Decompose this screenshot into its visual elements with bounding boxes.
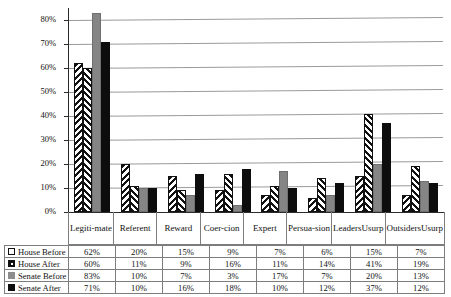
table-cell: 13% [398,270,445,281]
table-cell: 15% [351,246,398,257]
table-cell: 16% [210,258,257,269]
bar [308,198,317,212]
table-cell: 7% [257,246,304,257]
bar [215,190,224,212]
category-label-strip: Legiti-mateReferentRewardCoer-cionExpert… [68,212,445,245]
table-row: Senate Before83%10%7%3%17%7%20%13% [5,270,445,282]
table-cells: 60%11%9%16%11%14%41%19% [69,258,445,269]
category-label: Legiti-mate [68,212,113,245]
bar [382,123,391,212]
category-label-line: Leaders [333,223,361,234]
y-axis-tick-label: 10% [40,183,56,192]
table-cell: 37% [351,282,398,293]
bar-group [69,8,116,212]
table-cell: 7% [304,270,351,281]
legend-item-label: Senate Before [18,271,66,281]
bar [364,114,373,212]
bar [74,63,83,212]
table-cell: 9% [210,246,257,257]
table-cell: 11% [116,258,163,269]
category-label-line: Expert [253,223,277,234]
gray-square-icon [8,272,15,279]
bar-group [303,8,350,212]
table-row: House After60%11%9%16%11%14%41%19% [5,258,445,270]
legend-item[interactable]: House After [5,258,69,269]
y-axis-tick-label: 20% [40,159,56,168]
bar [101,42,110,212]
legend-item-label: Senate After [18,283,61,293]
bar [355,176,364,212]
category-label-line: Outsiders [387,223,422,234]
bar [242,169,251,212]
black-square-dot-icon [8,260,15,267]
y-axis-labels: 0%10%20%30%40%50%60%70%80% [0,0,64,220]
category-label-line: mate [95,223,113,234]
bar [224,174,233,212]
table-cell: 12% [398,282,445,293]
bar [373,164,382,212]
bar [233,205,242,212]
y-axis-tick-label: 60% [40,63,56,72]
legend-item[interactable]: House Before [5,246,69,257]
category-label: Persua-sion [286,212,331,245]
bar-group [396,8,443,212]
bar [121,164,130,212]
chart-figure: 0%10%20%30%40%50%60%70%80% Legiti-mateRe… [0,0,451,297]
y-axis-tick-label: 0% [45,207,56,216]
category-label: Coer-cion [200,212,243,245]
bar [326,195,335,212]
bar [92,13,101,212]
legend-item[interactable]: Senate After [5,282,69,293]
category-label: Expert [243,212,286,245]
bar [261,195,270,212]
category-label-line: sion [315,223,330,234]
table-cell: 20% [116,246,163,257]
category-label-line: Referent [120,223,151,234]
table-cell: 16% [163,282,210,293]
bar [288,188,297,212]
category-label-line: Usurp [362,223,384,234]
bar-group [163,8,210,212]
bar-group [209,8,256,212]
table-cell: 10% [116,270,163,281]
bar [335,183,344,212]
category-label: OutsidersUsurp [385,212,445,245]
category-label-line: cion [224,223,240,234]
bar [270,186,279,212]
bar [130,186,139,212]
table-cells: 71%10%16%18%10%12%37%12% [69,282,445,293]
black-square-icon [8,284,15,291]
table-cell: 41% [351,258,398,269]
y-axis-tick-label: 30% [40,135,56,144]
table-cells: 62%20%15%9%7%6%15%7% [69,246,445,257]
bar [420,181,429,212]
table-cell: 7% [163,270,210,281]
legend-item[interactable]: Senate Before [5,270,69,281]
category-label-line: Coer- [204,223,224,234]
legend-item-label: House After [18,259,60,269]
table-cell: 15% [163,246,210,257]
category-label-line: Usurp [421,223,443,234]
table-row: House Before62%20%15%9%7%6%15%7% [5,246,445,258]
table-row: Senate After71%10%16%18%10%12%37%12% [5,282,445,294]
category-label: Referent [113,212,156,245]
bar [317,178,326,212]
bar [195,174,204,212]
bar [83,68,92,212]
table-cell: 83% [69,270,116,281]
category-label: LeadersUsurp [331,212,384,245]
legend-item-label: House Before [18,247,66,257]
table-cell: 10% [257,282,304,293]
table-cell: 10% [116,282,163,293]
bar [429,183,438,212]
table-cell: 19% [398,258,445,269]
bar-group [116,8,163,212]
table-cell: 9% [163,258,210,269]
bar [139,188,148,212]
bar-group [350,8,397,212]
table-cell: 18% [210,282,257,293]
table-cell: 60% [69,258,116,269]
category-label-line: Reward [164,223,192,234]
table-cell: 7% [398,246,445,257]
y-axis-tick-label: 80% [40,15,56,24]
